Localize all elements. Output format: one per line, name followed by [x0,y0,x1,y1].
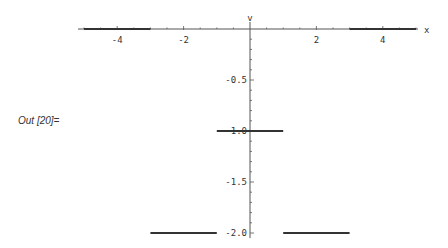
y-tick-label: -0.5 [225,75,247,85]
y-tick-label: -1.0 [225,126,247,136]
y-axis-label: v [247,13,252,23]
x-tick-label: 2 [314,35,319,45]
y-tick-label: -2.0 [225,228,247,238]
plot: -4-224-0.5-1.0-1.5-2.0xv [0,0,448,248]
x-tick-label: 4 [380,35,385,45]
x-axis-label: x [424,25,430,35]
y-tick-label: -1.5 [225,177,247,187]
x-tick-label: -4 [112,35,123,45]
x-tick-label: -2 [178,35,189,45]
axis-labels: -4-224-0.5-1.0-1.5-2.0xv [112,13,430,238]
